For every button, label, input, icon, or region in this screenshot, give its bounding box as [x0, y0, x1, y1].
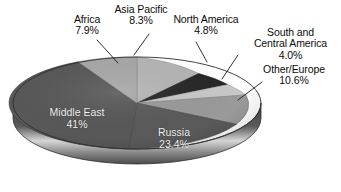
- label-north-america-percent: 4.8%: [163, 25, 249, 36]
- leader-line-north-america: [196, 42, 207, 62]
- label-middle-east-percent: 41%: [35, 119, 119, 131]
- label-south-central-america: South and Central America 4.0%: [243, 27, 338, 61]
- leader-line-asia-pacific: [134, 34, 149, 55]
- label-africa-percent: 7.9%: [59, 25, 115, 36]
- label-russia: Russia 23.4%: [143, 127, 205, 150]
- pie-chart: Africa 7.9% Asia Pacific 8.3% North Amer…: [0, 0, 341, 192]
- label-russia-name: Russia: [143, 127, 205, 139]
- label-other-europe-percent: 10.6%: [250, 75, 338, 86]
- label-south-central-america-percent: 4.0%: [243, 50, 338, 61]
- label-other-europe: Other/Europe 10.6%: [250, 64, 338, 87]
- label-middle-east-name: Middle East: [35, 107, 119, 119]
- label-russia-percent: 23.4%: [143, 139, 205, 151]
- pie-slices: [9, 57, 261, 149]
- label-middle-east: Middle East 41%: [35, 107, 119, 130]
- label-north-america: North America 4.8%: [163, 14, 249, 37]
